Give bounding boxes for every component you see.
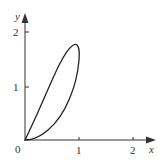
- x-tick-label-1: 1: [76, 144, 82, 156]
- y-axis-arrow-icon: [22, 13, 29, 23]
- origin-label: 0: [15, 143, 21, 155]
- plot: 0 1 2 x 1 2 y: [0, 0, 164, 163]
- y-axis-label: y: [14, 10, 20, 22]
- loop-curve: [25, 44, 79, 140]
- x-axis-label: x: [148, 143, 154, 155]
- x-tick-label-2: 2: [130, 144, 136, 156]
- y-tick-label-2: 2: [13, 26, 19, 38]
- y-tick-label-1: 1: [13, 81, 19, 93]
